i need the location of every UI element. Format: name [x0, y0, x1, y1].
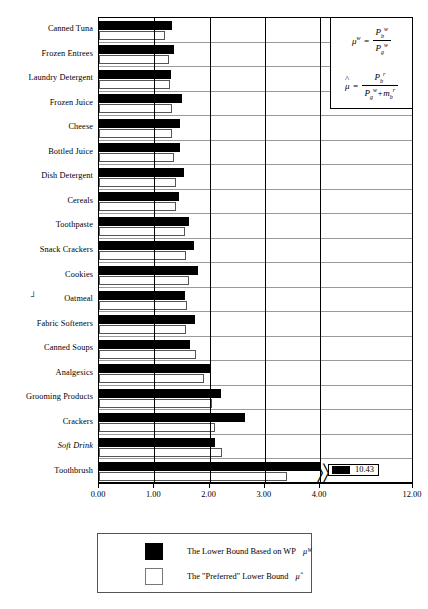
formula-mu-hat: ^μ = Pbr Pgw+mbr [345, 71, 398, 100]
legend-label: The "Preferred" Lower Boundμ̂ [187, 572, 300, 581]
bar-lower-bound-wp [99, 217, 189, 226]
bar-preferred-lower-bound [99, 301, 187, 310]
x-tick [264, 483, 265, 488]
bar-preferred-lower-bound [99, 227, 185, 236]
bar-lower-bound-wp [99, 45, 174, 54]
category-label-frozen-juice: Frozen Juice [50, 99, 93, 107]
bar-lower-bound-wp [99, 413, 245, 422]
bar-preferred-lower-bound [99, 202, 176, 211]
gridline-4 [320, 18, 321, 482]
category-label-laundry-detergent: Laundry Detergent [29, 74, 93, 82]
bar-lower-bound-wp [99, 266, 198, 275]
bar-lower-bound-wp [99, 241, 194, 250]
bar-lower-bound-wp [99, 168, 184, 177]
category-label-soft-drink: Soft Drink [58, 442, 93, 450]
bar-preferred-lower-bound [99, 350, 196, 359]
chart-figure: Canned TunaFrozen EntreesLaundry Deterge… [0, 0, 428, 609]
formula-mu-w-equals: = [363, 36, 369, 46]
x-tick-label-1.00: 1.00 [146, 490, 161, 499]
category-label-cheese: Cheese [68, 123, 93, 131]
x-tick-label-4.00: 4.00 [312, 490, 327, 499]
x-tick-label-0.00: 0.00 [91, 490, 106, 499]
x-tick [153, 483, 154, 488]
callout-swatch [332, 466, 350, 474]
category-label-dish-detergent: Dish Detergent [41, 172, 93, 180]
bar-preferred-lower-bound [99, 399, 212, 408]
bar-preferred-lower-bound [99, 129, 172, 138]
formula-mu-hat-den2-sup: r [393, 87, 395, 93]
x-tick [412, 483, 413, 488]
bar-lower-bound-wp [99, 192, 179, 201]
category-label-snack-crackers: Snack Crackers [40, 246, 93, 254]
chart-row: Fabric Softeners [99, 312, 412, 337]
chart-row: Toothpaste [99, 214, 412, 239]
category-label-canned-soups: Canned Soups [44, 344, 93, 352]
bar-preferred-lower-bound [99, 374, 204, 383]
bar-lower-bound-wp [99, 340, 190, 349]
legend-item-2: The "Preferred" Lower Boundμ̂ [145, 568, 300, 585]
category-label-oatmeal: Oatmeal [64, 295, 93, 303]
bar-lower-bound-wp [99, 143, 180, 152]
bar-lower-bound-wp [99, 291, 185, 300]
category-label-grooming-products: Grooming Products [26, 393, 93, 401]
bar-preferred-lower-bound [99, 251, 186, 260]
callout-value: 10.43 [355, 466, 374, 474]
formula-mu-w-lhs-sup: w [356, 35, 360, 41]
legend-swatch-white [145, 568, 163, 585]
gridline-1 [154, 18, 155, 482]
formula-mu-w: μw = Pbw Pgw [352, 26, 391, 55]
bar-preferred-lower-bound [99, 423, 215, 432]
chart-row: Canned Soups [99, 337, 412, 362]
bar-preferred-lower-bound [99, 325, 186, 334]
gridline-2 [210, 18, 211, 482]
chart-row: Crackers [99, 410, 412, 435]
category-label-bottled-juice: Bottled Juice [48, 148, 93, 156]
formula-mu-w-num-sub: b [381, 33, 384, 39]
gridline-3 [265, 18, 266, 482]
chart-row: Cheese [99, 116, 412, 141]
legend: The Lower Bound Based on WPμᵂThe "Prefer… [97, 533, 312, 593]
bar-preferred-lower-bound [99, 104, 172, 113]
formula-mu-hat-num-sup: r [383, 71, 385, 77]
x-tick-label-3.00: 3.00 [256, 490, 271, 499]
category-label-analgesics: Analgesics [56, 369, 93, 377]
bar-lower-bound-wp [99, 119, 180, 128]
formula-mu-hat-accent: ^ [345, 74, 350, 84]
bar-lower-bound-wp [99, 21, 172, 30]
bar-lower-bound-wp [99, 438, 215, 447]
category-label-crackers: Crackers [63, 418, 93, 426]
chart-row: Oatmeal [99, 288, 412, 313]
category-label-toothpaste: Toothpaste [56, 221, 93, 229]
bar-preferred-lower-bound [99, 448, 222, 457]
legend-label: The Lower Bound Based on WPμᵂ [187, 547, 312, 556]
legend-symbol: μ̂ [296, 572, 300, 581]
chart-row: Analgesics [99, 361, 412, 386]
chart-row: Cookies [99, 263, 412, 288]
chart-row: Bottled Juice [99, 141, 412, 166]
bar-lower-bound-wp [99, 94, 182, 103]
x-axis-line [98, 483, 413, 484]
bar-preferred-lower-bound [99, 80, 170, 89]
bar-lower-bound-wp [99, 70, 171, 79]
bar-preferred-lower-bound [99, 276, 189, 285]
legend-symbol: μᵂ [303, 547, 312, 556]
formula-box: μw = Pbw Pgw ^μ = Pbr Pgw+mbr [330, 17, 413, 109]
category-label-fabric-softeners: Fabric Softeners [37, 320, 93, 328]
bar-preferred-lower-bound [99, 178, 176, 187]
category-label-cookies: Cookies [65, 271, 93, 279]
category-label-toothbrush: Toothbrush [54, 467, 93, 475]
x-tick-label-2.00: 2.00 [201, 490, 216, 499]
bar-lower-bound-wp [99, 315, 195, 324]
formula-mu-hat-den2-sub: b [390, 94, 393, 100]
x-tick [98, 483, 99, 488]
legend-item-1: The Lower Bound Based on WPμᵂ [145, 543, 312, 560]
legend-swatch-black [145, 543, 163, 560]
formula-mu-hat-num-sub: b [380, 78, 383, 84]
category-label-canned-tuna: Canned Tuna [48, 25, 93, 33]
formula-mu-w-den-sub: g [381, 49, 384, 55]
bar-preferred-lower-bound [99, 153, 174, 162]
formula-mu-w-num-sup: w [384, 26, 388, 32]
oatmeal-annotation-mark: ┘ [31, 292, 36, 302]
formula-mu-w-den-sup: w [384, 42, 388, 48]
bar-lower-bound-wp [99, 389, 221, 398]
